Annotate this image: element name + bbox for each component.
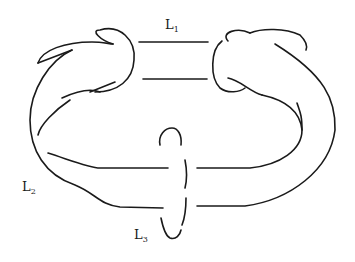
l3-component [160,128,187,238]
link-diagram [0,0,355,262]
label-l2-subscript: 2 [31,187,36,196]
label-l1: L1 [165,18,179,34]
label-l1-text: L [165,17,174,32]
label-l1-subscript: 1 [174,25,179,34]
label-l3-subscript: 3 [143,235,148,244]
l2-component [30,29,335,208]
l1-component [90,29,262,95]
label-l2: L2 [22,180,36,196]
label-l2-text: L [22,179,31,194]
label-l3-text: L [134,227,143,242]
label-l3: L3 [134,228,148,244]
